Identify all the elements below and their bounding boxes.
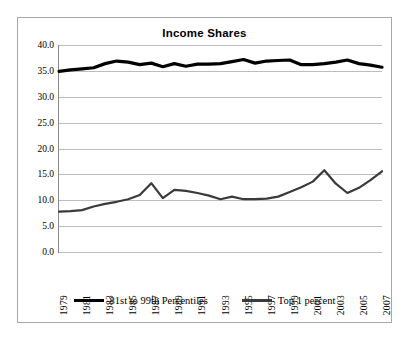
y-tick-label: 15.0	[37, 169, 54, 179]
gridline	[59, 252, 382, 253]
y-tick-label: 10.0	[37, 195, 54, 205]
legend-label: 81st to 99th Percentiles	[110, 295, 208, 306]
series-line	[59, 59, 382, 71]
chart-legend: 81st to 99th Percentiles Top 1 percent	[18, 295, 391, 306]
y-tick-label: 40.0	[37, 40, 54, 50]
y-tick-label: 25.0	[37, 118, 54, 128]
y-tick-label: 30.0	[37, 92, 54, 102]
y-tick-label: 0.0	[42, 247, 54, 257]
chart-container: Income Shares 40.035.030.025.020.015.010…	[17, 17, 392, 323]
legend-swatch-icon	[74, 299, 104, 302]
chart-title: Income Shares	[18, 27, 391, 39]
series-lines	[59, 45, 382, 252]
series-line	[59, 170, 382, 211]
y-tick-label: 35.0	[37, 66, 54, 76]
legend-item-81st-to-99th-percentiles: 81st to 99th Percentiles	[74, 295, 208, 306]
legend-item-top-1-percent: Top 1 percent	[242, 295, 336, 306]
legend-label: Top 1 percent	[278, 295, 336, 306]
y-tick-label: 20.0	[37, 144, 54, 154]
plot-area: 40.035.030.025.020.015.010.05.00.0 19791…	[58, 45, 382, 253]
legend-swatch-icon	[242, 299, 272, 301]
y-tick-label: 5.0	[42, 221, 54, 231]
